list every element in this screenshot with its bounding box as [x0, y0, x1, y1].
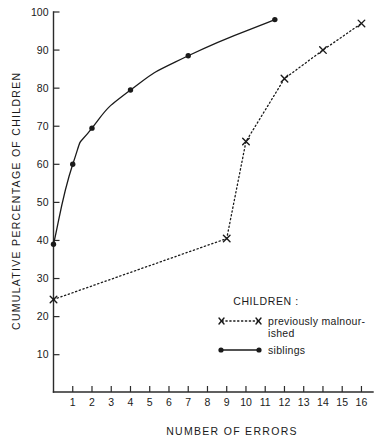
series-line [54, 20, 275, 245]
data-point-marker [89, 125, 94, 130]
y-axis-tick-labels: 102030405060708090100 [31, 6, 49, 361]
y-tick-label-10: 10 [37, 348, 49, 360]
x-axis-title: NUMBER OF ERRORS [166, 425, 298, 437]
x-tick-label-9: 9 [224, 396, 230, 408]
x-axis-tick-labels: 12345678910111213141516 [70, 396, 368, 408]
y-tick-label-90: 90 [37, 44, 49, 56]
legend-heading: CHILDREN : [233, 295, 299, 307]
y-tick-label-80: 80 [37, 82, 49, 94]
y-tick-label-40: 40 [37, 234, 49, 246]
legend-entry-previously-malnourished: previously malnour- ished [219, 315, 366, 339]
y-tick-label-100: 100 [31, 6, 49, 18]
x-tick-label-6: 6 [166, 396, 172, 408]
legend-label-siblings: siblings [268, 344, 305, 356]
data-point-marker [51, 242, 56, 247]
x-axis-group: 12345678910111213141516 [54, 386, 374, 408]
data-point-marker [272, 17, 277, 22]
y-tick-label-50: 50 [37, 196, 49, 208]
x-tick-label-15: 15 [336, 396, 348, 408]
y-axis-title: CUMULATIVE PERCENTAGE OF CHILDREN [10, 72, 22, 330]
chart-figure: 102030405060708090100 123456789101112131… [0, 0, 390, 447]
legend-dot-marker-left [218, 347, 223, 352]
data-point-marker [223, 235, 230, 242]
series-previously-malnourished [50, 20, 365, 303]
y-tick-label-70: 70 [37, 120, 49, 132]
x-tick-label-12: 12 [279, 396, 291, 408]
legend-label-malnourished-line2: ished [268, 327, 295, 339]
legend-dot-marker-right [256, 347, 261, 352]
chart-svg: 102030405060708090100 123456789101112131… [0, 0, 390, 447]
x-tick-label-3: 3 [108, 396, 114, 408]
data-point-marker [281, 75, 288, 82]
x-tick-label-1: 1 [70, 396, 76, 408]
y-axis-group: 102030405060708090100 [31, 6, 60, 393]
x-tick-label-2: 2 [89, 396, 95, 408]
x-tick-label-11: 11 [260, 396, 271, 408]
data-point-marker [128, 87, 133, 92]
data-point-marker [186, 53, 191, 58]
data-point-marker [320, 47, 327, 54]
x-tick-label-5: 5 [147, 396, 153, 408]
x-axis-ticks [73, 386, 362, 392]
legend: CHILDREN : previously malnour- ished [218, 295, 365, 356]
series-siblings [51, 17, 278, 247]
legend-label-malnourished-line1: previously malnour- [268, 315, 366, 327]
y-tick-label-60: 60 [37, 158, 49, 170]
x-tick-label-13: 13 [298, 396, 310, 408]
legend-entry-siblings: siblings [218, 344, 305, 356]
data-series-layer [50, 17, 365, 303]
data-point-marker [358, 20, 365, 27]
y-tick-label-20: 20 [37, 310, 49, 322]
x-tick-label-16: 16 [356, 396, 368, 408]
data-point-marker [70, 162, 75, 167]
x-tick-label-10: 10 [240, 396, 252, 408]
x-tick-label-8: 8 [205, 396, 211, 408]
y-tick-label-30: 30 [37, 272, 49, 284]
legend-swatch-x-dotted [219, 318, 261, 324]
x-tick-label-7: 7 [185, 396, 191, 408]
legend-swatch-dot-solid [218, 347, 261, 352]
x-tick-label-14: 14 [317, 396, 329, 408]
x-tick-label-4: 4 [128, 396, 134, 408]
series-line [54, 23, 362, 299]
